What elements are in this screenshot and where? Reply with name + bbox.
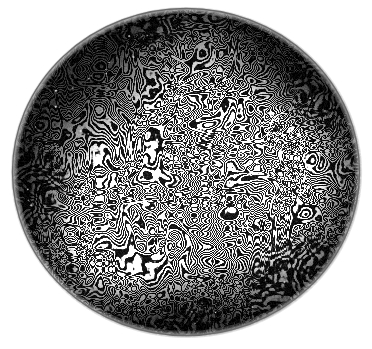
turing-pattern-image — [0, 0, 372, 349]
figure-root: Labyrinthine Turing pattern in a circula… — [0, 0, 372, 349]
